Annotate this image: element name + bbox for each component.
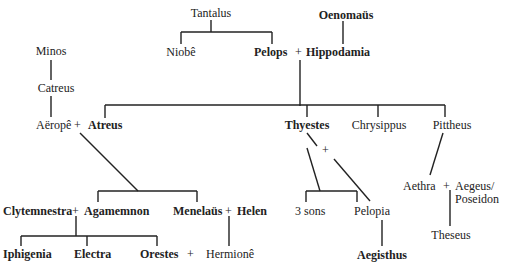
node-aethra: Aethra bbox=[403, 179, 436, 193]
node-aegeus: Aegeus/ bbox=[455, 179, 494, 193]
node-menelaus: Menelaüs bbox=[173, 204, 222, 218]
node-aegisthus: Aegisthus bbox=[357, 248, 407, 262]
node-agamemnon: Agamemnon bbox=[84, 204, 149, 218]
node-three-sons: 3 sons bbox=[295, 204, 325, 218]
node-poseidon: Poseidon bbox=[455, 192, 499, 206]
union-symbol: + bbox=[187, 247, 194, 261]
node-pelopia: Pelopia bbox=[354, 204, 390, 218]
union-symbol: + bbox=[295, 45, 302, 59]
node-pelops: Pelops bbox=[254, 45, 287, 59]
node-aerope: Aëropê bbox=[36, 118, 71, 132]
node-chrysippus: Chrysippus bbox=[352, 118, 407, 132]
node-catreus: Catreus bbox=[38, 81, 75, 95]
node-oenomaus: Oenomaüs bbox=[319, 8, 374, 22]
union-symbol: + bbox=[74, 118, 81, 132]
union-symbol: + bbox=[443, 179, 450, 193]
node-helen: Helen bbox=[237, 204, 267, 218]
node-theseus: Theseus bbox=[431, 228, 470, 242]
node-hermione: Hermionê bbox=[206, 247, 254, 261]
node-iphigenia: Iphigenia bbox=[3, 247, 52, 261]
union-symbol: + bbox=[225, 204, 232, 218]
union-symbol: + bbox=[72, 204, 79, 218]
node-minos: Minos bbox=[36, 44, 67, 58]
node-electra: Electra bbox=[74, 247, 111, 261]
node-thyestes: Thyestes bbox=[285, 118, 330, 132]
node-hippodamia: Hippodamia bbox=[306, 45, 370, 59]
node-niobe: Niobê bbox=[166, 45, 195, 59]
node-atreus: Atreus bbox=[88, 118, 122, 132]
node-clytemnestra: Clytemnestra bbox=[3, 204, 72, 218]
node-orestes: Orestes bbox=[140, 247, 178, 261]
union-symbol: + bbox=[322, 143, 329, 157]
node-pittheus: Pittheus bbox=[433, 118, 472, 132]
node-tantalus: Tantalus bbox=[191, 6, 231, 20]
